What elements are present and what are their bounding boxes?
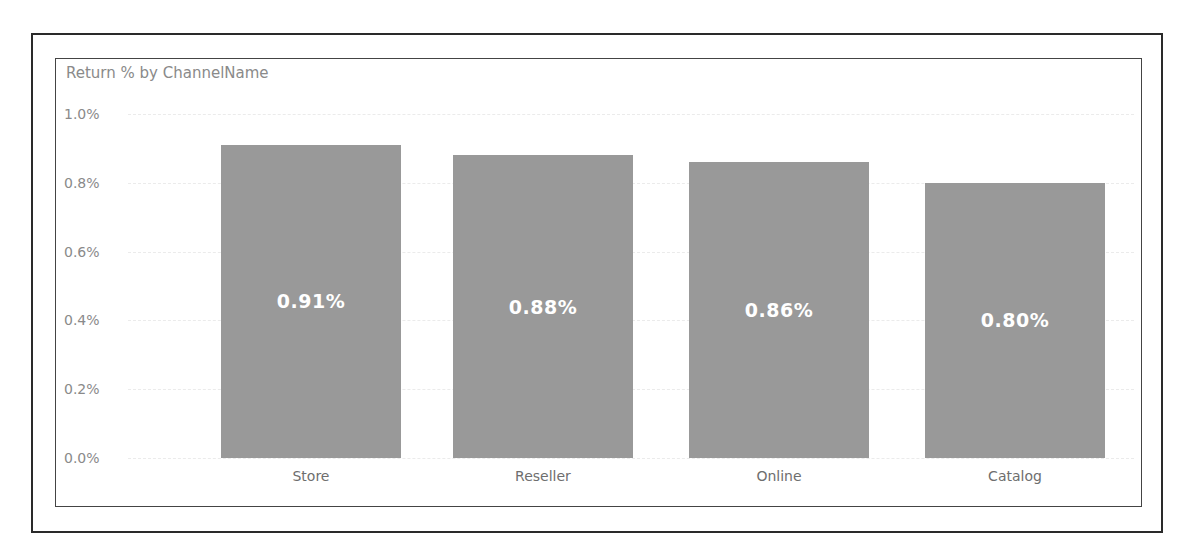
bar-reseller[interactable]: 0.88% <box>453 155 633 458</box>
data-label: 0.86% <box>689 299 869 321</box>
data-label: 0.80% <box>925 309 1105 331</box>
chart-title: Return % by ChannelName <box>66 64 269 82</box>
y-tick-label: 0.8% <box>64 175 100 191</box>
y-tick-label: 0.4% <box>64 312 100 328</box>
bar-online[interactable]: 0.86% <box>689 162 869 458</box>
bar-catalog[interactable]: 0.80% <box>925 183 1105 458</box>
gridline <box>128 458 1134 459</box>
y-tick-label: 0.2% <box>64 381 100 397</box>
data-label: 0.88% <box>453 296 633 318</box>
x-tick-label: Online <box>689 468 869 484</box>
y-tick-label: 1.0% <box>64 106 100 122</box>
bar-store[interactable]: 0.91% <box>221 145 401 458</box>
y-tick-label: 0.0% <box>64 450 100 466</box>
data-label: 0.91% <box>221 290 401 312</box>
x-tick-label: Reseller <box>453 468 633 484</box>
x-tick-label: Store <box>221 468 401 484</box>
y-tick-label: 0.6% <box>64 244 100 260</box>
gridline <box>128 114 1134 115</box>
x-tick-label: Catalog <box>925 468 1105 484</box>
